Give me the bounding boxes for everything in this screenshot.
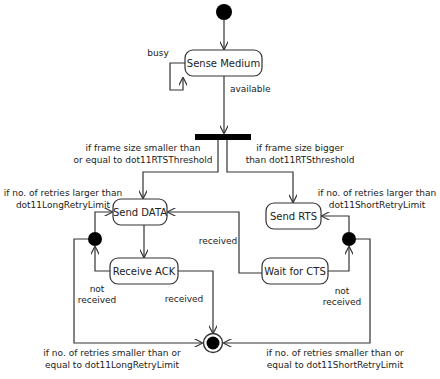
label-short-retry-ok-1: if no. of retries smaller than or bbox=[266, 348, 404, 358]
edge-ack-not-received bbox=[95, 247, 110, 271]
label-cts-received: received bbox=[199, 236, 238, 246]
edge-short-retry-exceeded bbox=[322, 216, 349, 232]
label-ack-received: received bbox=[165, 294, 204, 304]
label-available: available bbox=[230, 84, 271, 94]
label-small-frame-2: or equal to dot11RTSThreshold bbox=[73, 155, 212, 165]
state-receive-ack-label: Receive ACK bbox=[113, 266, 176, 277]
decision-node-left bbox=[88, 232, 102, 246]
activity-diagram: Sense Medium busy available if frame siz… bbox=[0, 0, 440, 379]
label-short-retry-ok-2: equal to dot11ShortRetryLimit bbox=[267, 360, 404, 370]
label-ack-not-received-1: not bbox=[90, 284, 105, 294]
label-big-frame-1: if frame size bigger bbox=[256, 143, 344, 153]
state-send-rts-label: Send RTS bbox=[270, 211, 317, 222]
state-wait-cts-label: Wait for CTS bbox=[264, 266, 326, 277]
label-cts-not-received-2: received bbox=[323, 297, 362, 307]
decision-node-right bbox=[342, 232, 356, 246]
state-sense-medium-label: Sense Medium bbox=[187, 58, 260, 69]
label-big-frame-2: than dot11RTSthreshold bbox=[246, 155, 355, 165]
final-node bbox=[204, 334, 223, 353]
label-long-retry-ok-2: equal to dot11LongRetryLimit bbox=[45, 360, 179, 370]
state-send-data: Send DATA bbox=[113, 199, 167, 225]
state-send-rts: Send RTS bbox=[266, 203, 321, 229]
label-long-retry-exceeded-2: dot11LongRetryLimit bbox=[16, 200, 111, 210]
label-long-retry-exceeded-1: if no. of retries larger than bbox=[4, 188, 123, 198]
label-short-retry-exceeded-1: if no. of retries larger than bbox=[318, 188, 437, 198]
state-receive-ack: Receive ACK bbox=[110, 258, 178, 284]
state-send-data-label: Send DATA bbox=[113, 207, 167, 218]
edge-cts-not-received bbox=[328, 247, 349, 271]
label-small-frame-1: if frame size smaller than bbox=[86, 143, 201, 153]
label-busy: busy bbox=[147, 48, 169, 58]
label-ack-not-received-2: received bbox=[78, 295, 117, 305]
state-wait-cts: Wait for CTS bbox=[262, 258, 328, 284]
state-sense-medium: Sense Medium bbox=[185, 50, 262, 76]
initial-node bbox=[216, 4, 232, 20]
label-short-retry-exceeded-2: dot11ShortRetryLimit bbox=[329, 200, 426, 210]
label-cts-not-received-1: not bbox=[335, 286, 350, 296]
edge-busy-loop bbox=[170, 63, 185, 90]
fork-bar bbox=[195, 134, 251, 140]
label-long-retry-ok-1: if no. of retries smaller than or bbox=[43, 348, 181, 358]
edge-long-retry-exceeded bbox=[95, 212, 112, 232]
